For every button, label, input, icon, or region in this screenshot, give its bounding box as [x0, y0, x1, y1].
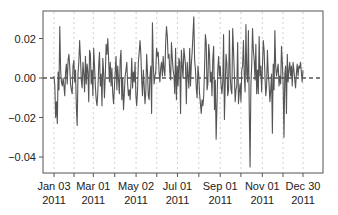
x-tick-label-date: Dec 30: [286, 180, 321, 192]
x-tick-label-year: 2011: [124, 194, 148, 206]
x-tick-label-year: 2011: [166, 194, 190, 206]
x-tick-label-year: 2011: [81, 194, 105, 206]
y-tick-label: 0.00: [15, 72, 36, 84]
x-tick-label-date: Jul 01: [163, 180, 192, 192]
x-tick-label-date: Jan 03: [37, 180, 70, 192]
returns-series-line: [54, 17, 303, 167]
y-tick-label: −0.02: [8, 112, 36, 124]
x-tick-label-date: May 02: [118, 180, 154, 192]
x-tick-label-date: Nov 01: [245, 180, 280, 192]
x-tick-label-year: 2011: [208, 194, 232, 206]
x-tick-label-date: Mar 01: [76, 180, 110, 192]
time-series-chart: 0.020.00−0.02−0.04 Jan 032011Mar 012011M…: [0, 0, 338, 215]
y-tick-label: 0.02: [15, 33, 36, 45]
x-tick-label-year: 2011: [250, 194, 274, 206]
x-tick-label-date: Sep 01: [203, 180, 238, 192]
x-tick-label-year: 2011: [42, 194, 66, 206]
x-axis: Jan 032011Mar 012011May 022011Jul 012011…: [37, 173, 320, 206]
y-tick-label: −0.04: [8, 151, 36, 163]
y-axis: 0.020.00−0.02−0.04: [8, 33, 43, 164]
x-tick-label-year: 2011: [291, 194, 315, 206]
